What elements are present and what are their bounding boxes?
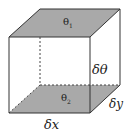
height-label: δθ: [92, 62, 108, 77]
cube-diagram: θ1 θ2 δθ δy δx: [0, 0, 128, 133]
width-label: δx: [44, 117, 60, 132]
depth-label: δy: [109, 97, 123, 111]
